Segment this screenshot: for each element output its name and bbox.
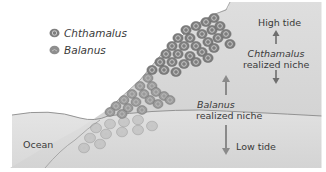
chthamalus-barnacle [185,33,195,42]
balanus-niche-text: realized niche [196,110,262,121]
chthamalus-barnacle [191,21,201,30]
chthamalus-barnacle [179,41,189,50]
balanus-niche-species: Balanus [196,99,262,110]
chthamalus-barnacle [197,29,207,38]
chthamalus-barnacle [225,39,235,48]
balanus-barnacle [165,96,175,105]
chthamalus-barnacle-icon [49,28,60,38]
chthamalus-barnacle [215,21,225,30]
chthamalus-barnacle [181,25,191,34]
legend-label-balanus: Balanus [64,44,106,56]
legend-item-chthamalus: Chthamalus [49,27,127,39]
submerged-balanus-barnacle [119,117,130,127]
chthamalus-barnacle [221,29,231,38]
chthamalus-barnacle [179,59,189,68]
chthamalus-barnacle [209,43,219,52]
balanus-barnacle [105,108,115,117]
chthamalus-barnacle [173,49,183,58]
low-tide-label: Low tide [236,141,276,152]
chthamalus-barnacle [209,13,219,22]
chthamalus-niche-label: Chthamalus realized niche [243,48,309,70]
balanus-barnacle-icon [49,45,60,55]
chthamalus-niche-species: Chthamalus [243,48,309,59]
chthamalus-barnacle [161,49,171,58]
balanus-barnacle [143,74,153,83]
high-tide-label: High tide [258,17,301,28]
chthamalus-barnacle [155,57,165,66]
chthamalus-barnacle [167,41,177,50]
balanus-barnacle [117,110,127,119]
balanus-niche-label: Balanus realized niche [196,99,262,121]
chthamalus-barnacle [173,33,183,42]
submerged-balanus-barnacle [147,121,158,131]
submerged-balanus-barnacle [79,143,90,153]
submerged-balanus-barnacle [85,133,96,143]
chthamalus-barnacle [203,53,213,62]
chthamalus-barnacle [191,57,201,66]
submerged-balanus-barnacle [91,123,102,133]
chthamalus-barnacle [147,65,157,74]
balanus-barnacle [153,100,163,109]
ocean-label: Ocean [23,139,53,150]
submerged-balanus-barnacle [95,139,106,149]
balanus-barnacle [127,90,137,99]
chthamalus-barnacle [167,57,177,66]
submerged-balanus-barnacle [133,125,144,135]
chthamalus-barnacle [159,65,169,74]
balanus-barnacle [131,98,141,107]
submerged-balanus-barnacle [117,127,128,137]
ocean-water [12,110,322,168]
balanus-barnacle [135,82,145,91]
chthamalus-barnacle [171,67,181,76]
legend-item-balanus: Balanus [49,44,106,56]
balanus-barnacle [119,96,129,105]
chthamalus-niche-text: realized niche [243,59,309,70]
legend-label-chthamalus: Chthamalus [64,27,127,39]
balanus-barnacle [137,106,147,115]
submerged-balanus-barnacle [105,119,116,129]
submerged-balanus-barnacle [133,115,144,125]
submerged-balanus-barnacle [101,129,112,139]
